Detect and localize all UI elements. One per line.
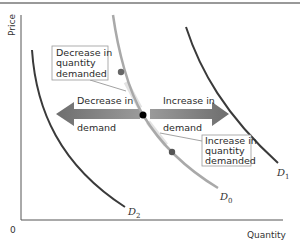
increase-demand-top: Increase in	[163, 95, 215, 106]
point-higher-price	[118, 69, 124, 75]
increase-demand-arrow: Increase in demand	[150, 95, 229, 133]
x-axis-label: Quantity	[247, 230, 287, 240]
increase-demand-bottom: demand	[163, 122, 202, 133]
point-initial	[140, 112, 147, 119]
increase-quantity-demanded-box: Increase in quantity demanded	[202, 135, 257, 166]
decrease-demand-bottom: demand	[77, 122, 116, 133]
decrease-demand-top: Decrease in	[77, 95, 133, 106]
decrease-demand-arrow: Decrease in demand	[56, 95, 140, 133]
origin-label: 0	[10, 225, 16, 235]
decrease-quantity-demanded-box: Decrease in quantity demanded	[52, 46, 112, 80]
axes: Price 0 Quantity	[7, 14, 287, 240]
leader-line-increase-qd	[160, 133, 202, 141]
y-axis-label: Price	[7, 14, 17, 36]
point-lower-price	[169, 149, 175, 155]
curve-label-d1: D1	[276, 167, 290, 181]
box-line-3: demanded	[56, 68, 107, 79]
leader-line-decrease-qd	[90, 80, 126, 91]
box-line-2: quantity	[56, 57, 96, 68]
curve-label-d2: D2	[127, 206, 141, 220]
curve-label-d0: D0	[219, 191, 233, 205]
demand-shift-diagram: Price 0 Quantity D2 D1 Decrease in deman…	[0, 0, 300, 244]
box-line-3: demanded	[205, 155, 256, 166]
